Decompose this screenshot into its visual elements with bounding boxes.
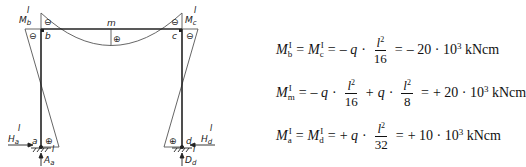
frame-moment-diagram: b c m a d Mb I Mc I Ha I Aa I Hd I Dd I … xyxy=(0,0,260,167)
fraction: l232 xyxy=(375,118,388,153)
sign-c-column: ⊖ xyxy=(186,31,194,41)
label-Mb: Mb xyxy=(19,15,32,27)
node-label-a: a xyxy=(32,136,38,146)
symbol-Ma: MIa xyxy=(276,126,292,145)
fraction: l28 xyxy=(401,75,413,110)
arrow-Aa xyxy=(39,153,43,166)
sign-a: ⊕ xyxy=(45,136,53,146)
sign-c-beam: ⊖ xyxy=(171,17,179,27)
label-Dd-sup: I xyxy=(193,145,196,154)
equation-Mb-Mc: MIb = MIc = – q · l216 = – 20 · 103 kNcm xyxy=(276,28,505,71)
label-Mb-sup: I xyxy=(27,6,30,15)
result-value: – 20 · 103 kNcm xyxy=(407,41,499,58)
label-Ha: Ha xyxy=(8,134,19,146)
label-Ha-sup: I xyxy=(18,124,21,133)
sign-b-column: ⊖ xyxy=(29,31,37,41)
result-value: + 20 · 103 kNcm xyxy=(433,84,526,101)
support-a xyxy=(31,145,51,152)
equation-Ma-Md: MIa = MId = + q · l232 = + 10 · 103 kNcm xyxy=(276,114,505,157)
support-d xyxy=(172,145,192,152)
fraction: l216 xyxy=(374,32,387,67)
label-Mc-sup: I xyxy=(194,6,197,15)
arrow-Dd xyxy=(180,153,184,166)
symbol-Md: MId xyxy=(308,126,324,145)
label-Dd: Dd xyxy=(185,155,197,167)
label-Aa-sup: I xyxy=(52,145,55,154)
sign-b-beam: ⊖ xyxy=(44,17,52,27)
equation-Mm: MIm = – q · l216 +q · l28 = + 20 · 103 k… xyxy=(276,71,505,114)
joint-b xyxy=(41,29,44,32)
joint-c xyxy=(179,29,182,32)
left-column-moment xyxy=(25,29,59,147)
symbol-Mm: MIm xyxy=(276,83,295,102)
node-label-c: c xyxy=(172,31,177,41)
label-Aa: Aa xyxy=(43,155,54,167)
symbol-Mc: MIc xyxy=(308,40,324,59)
label-Hd-sup: I xyxy=(210,124,213,133)
sign-m: ⊕ xyxy=(113,34,121,44)
node-label-d: d xyxy=(186,136,192,146)
node-label-m: m xyxy=(107,18,116,28)
node-label-b: b xyxy=(45,31,51,41)
right-column-moment xyxy=(164,29,198,147)
fraction: l216 xyxy=(345,75,358,110)
moment-equations: MIb = MIc = – q · l216 = – 20 · 103 kNcm… xyxy=(276,28,505,157)
result-value: + 10 · 103 kNcm xyxy=(408,127,501,144)
label-Hd: Hd xyxy=(201,134,213,146)
label-Mc: Mc xyxy=(185,15,197,27)
symbol-Mb: MIb xyxy=(276,40,292,59)
sign-d: ⊕ xyxy=(169,136,177,146)
